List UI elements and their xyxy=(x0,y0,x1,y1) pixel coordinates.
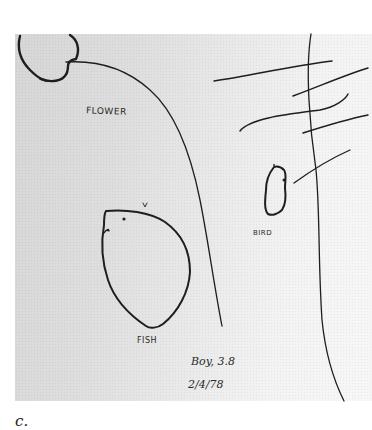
label-flower: FLOWER xyxy=(86,105,127,116)
bird-outline xyxy=(265,167,286,215)
branch-stroke-2 xyxy=(293,68,368,96)
annotation-date: 2/4/78 xyxy=(188,378,223,391)
branch-stroke-5 xyxy=(294,150,350,183)
branch-stroke-4 xyxy=(303,115,368,133)
figure-caption: c. xyxy=(15,412,28,430)
annotation-age: Boy, 3.8 xyxy=(191,355,235,368)
label-bird: BIRD xyxy=(253,229,272,237)
fish-outline xyxy=(102,210,190,327)
tree-trunk-line xyxy=(308,34,344,401)
branch-stroke-1 xyxy=(214,61,332,81)
branch-stroke-3 xyxy=(240,94,348,131)
label-fish: FISH xyxy=(137,336,157,345)
flower-head xyxy=(19,35,78,81)
flower-stem xyxy=(66,62,222,326)
fish-eye xyxy=(122,217,125,220)
figure: FLOWER BIRD FISH Boy, 3.8 2/4/78 c. xyxy=(0,0,372,430)
child-drawing xyxy=(0,0,372,430)
fish-mark xyxy=(143,203,147,207)
